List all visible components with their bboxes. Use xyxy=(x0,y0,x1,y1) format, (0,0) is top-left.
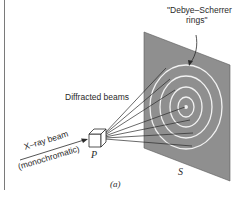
diffracted-beams-label: Diffracted beams xyxy=(65,93,129,102)
debye-scherrer-diagram: "Debye–Scherrer rings" Diffracted beams … xyxy=(0,0,249,198)
ring-center-spot xyxy=(185,106,188,109)
xray-arrowhead xyxy=(81,139,88,144)
cube-front-face xyxy=(89,134,101,147)
sample-label-p: P xyxy=(91,150,97,160)
screen-label-s: S xyxy=(178,167,183,177)
rings-label-line2: rings" xyxy=(186,16,207,25)
sample-cube xyxy=(89,129,106,147)
rings-label-line1: "Debye–Scherrer xyxy=(167,6,232,15)
panel-label: (a) xyxy=(110,180,121,189)
